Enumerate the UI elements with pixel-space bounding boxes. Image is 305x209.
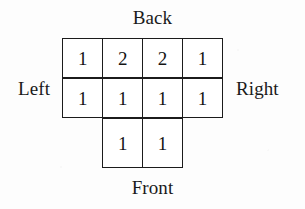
grid-row: 1 1 xyxy=(62,118,228,168)
grid-cell: 1 xyxy=(62,78,104,118)
direction-label-right: Right xyxy=(236,79,279,98)
grid-cell: 1 xyxy=(62,38,104,78)
grid-cell: 1 xyxy=(142,118,184,168)
grid-cell: 1 xyxy=(102,118,144,168)
grid-row: 1 1 1 1 xyxy=(62,78,228,118)
direction-label-left: Left xyxy=(18,79,50,98)
grid-cell: 1 xyxy=(182,78,224,118)
cube-count-grid: 1 2 2 1 1 1 1 1 1 1 xyxy=(62,38,228,168)
grid-cell: 1 xyxy=(142,78,184,118)
grid-cell: 2 xyxy=(102,38,144,78)
grid-cell-empty xyxy=(182,118,224,168)
grid-row: 1 2 2 1 xyxy=(62,38,228,78)
figure-canvas: Back Left Right Front 1 2 2 1 1 1 1 1 1 … xyxy=(0,0,305,209)
direction-label-front: Front xyxy=(0,178,305,197)
grid-cell: 2 xyxy=(142,38,184,78)
grid-cell: 1 xyxy=(182,38,224,78)
grid-cell-empty xyxy=(62,118,104,168)
grid-cell: 1 xyxy=(102,78,144,118)
direction-label-back: Back xyxy=(0,8,305,27)
